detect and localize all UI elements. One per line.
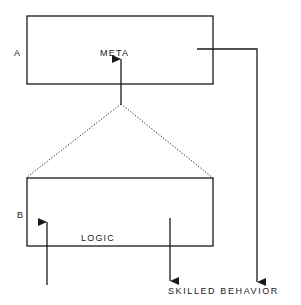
box-a-label: META bbox=[100, 48, 129, 58]
box-b-label: LOGIC bbox=[81, 233, 115, 243]
box-a-letter: A bbox=[14, 48, 21, 58]
diagram-canvas bbox=[0, 0, 301, 305]
dotted-line-right bbox=[121, 104, 213, 178]
output-label: SKILLED BEHAVIOR bbox=[168, 286, 279, 296]
box-b-letter: B bbox=[17, 210, 24, 220]
dotted-line-left bbox=[26, 104, 121, 178]
box-b bbox=[27, 178, 213, 246]
